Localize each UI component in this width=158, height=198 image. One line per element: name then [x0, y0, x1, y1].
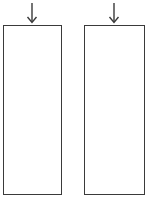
box-right: [84, 25, 145, 195]
arrow-down-icon: [26, 3, 38, 24]
arrow-down-icon: [108, 3, 120, 24]
box-left: [3, 25, 62, 195]
